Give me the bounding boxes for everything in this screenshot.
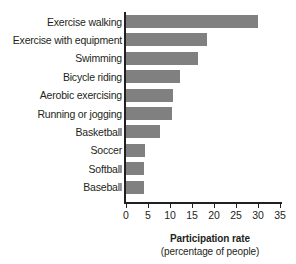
- x-tick-label: 20: [202, 209, 226, 221]
- x-tick-label: 15: [180, 209, 204, 221]
- category-label: Running or jogging: [0, 108, 122, 120]
- bar: [126, 89, 173, 102]
- x-tick-label: 5: [136, 209, 160, 221]
- category-label: Baseball: [0, 181, 122, 193]
- category-label: Basketball: [0, 126, 122, 138]
- category-label: Swimming: [0, 52, 122, 64]
- x-tick-label: 25: [224, 209, 248, 221]
- bar: [126, 181, 144, 194]
- bar: [126, 33, 207, 46]
- x-tick: [126, 203, 127, 208]
- x-tick: [280, 203, 281, 208]
- x-tick: [236, 203, 237, 208]
- bar: [126, 15, 258, 28]
- bar-chart: Exercise walkingExercise with equipmentS…: [0, 0, 296, 264]
- x-tick: [214, 203, 215, 208]
- y-axis-line: [124, 12, 126, 203]
- bar: [126, 52, 198, 65]
- category-label: Bicycle riding: [0, 71, 122, 83]
- plot-area: [126, 15, 286, 199]
- x-axis-title-line1: Participation rate: [130, 232, 290, 245]
- bar: [126, 162, 144, 175]
- bar: [126, 107, 172, 120]
- category-label: Exercise with equipment: [0, 34, 122, 46]
- bar: [126, 125, 160, 138]
- category-label: Softball: [0, 163, 122, 175]
- category-label: Aerobic exercising: [0, 89, 122, 101]
- x-tick: [258, 203, 259, 208]
- x-axis-title: Participation rate (percentage of people…: [130, 232, 290, 258]
- x-tick: [170, 203, 171, 208]
- x-tick-label: 0: [114, 209, 138, 221]
- x-tick-label: 35: [268, 209, 292, 221]
- category-label: Exercise walking: [0, 16, 122, 28]
- x-tick-label: 30: [246, 209, 270, 221]
- x-tick: [192, 203, 193, 208]
- bar: [126, 70, 180, 83]
- x-tick: [148, 203, 149, 208]
- category-axis-labels: Exercise walkingExercise with equipmentS…: [0, 15, 122, 199]
- x-axis-title-line2: (percentage of people): [130, 245, 290, 258]
- bar: [126, 144, 145, 157]
- x-tick-label: 10: [158, 209, 182, 221]
- category-label: Soccer: [0, 144, 122, 156]
